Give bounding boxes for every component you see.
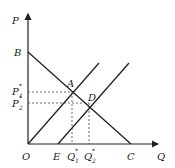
svg-text:*: * [19,82,22,89]
x-axis-label: Q [157,151,165,162]
demand-curve [28,52,131,144]
svg-text:1: 1 [75,157,79,164]
point-b-label: B [13,47,21,58]
y-axis-label: P [11,15,19,26]
svg-text:*: * [75,147,78,154]
point-a-label: A [66,78,74,89]
svg-text:2: 2 [91,157,96,164]
svg-text:Q: Q [84,151,92,162]
svg-text:2: 2 [18,104,23,111]
origin-label: O [22,151,30,162]
supply-demand-diagram: P Q O B A D E C P * 1 P * 2 Q * 1 Q * 2 [0,0,175,168]
svg-text:P: P [11,98,19,109]
point-d-label: D [87,92,96,103]
svg-text:*: * [19,94,22,101]
point-e-label: E [52,151,61,162]
point-c-label: C [127,151,135,162]
guide-lines [28,92,89,144]
svg-text:P: P [11,86,19,97]
q1-star-label: Q * 1 [67,147,79,164]
svg-text:*: * [92,147,95,154]
svg-text:Q: Q [67,151,75,162]
supply-curve-1 [28,63,99,144]
q2-star-label: Q * 2 [84,147,96,164]
